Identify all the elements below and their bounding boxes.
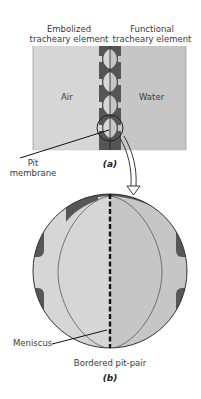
- meniscus-label: Meniscus: [13, 338, 52, 348]
- cell-wall-strip: [99, 46, 121, 150]
- panel-a-caption: (a): [103, 159, 117, 169]
- pit-membrane-label-line2: membrane: [10, 168, 57, 178]
- xylem-embolism-diagram: Embolized tracheary element Functional t…: [0, 0, 201, 399]
- pit-membrane-label-line1: Pit: [28, 158, 39, 168]
- water-label: Water: [139, 92, 164, 102]
- panel-b-caption: (b): [103, 373, 118, 383]
- air-label: Air: [61, 92, 73, 102]
- bordered-pit-pair-label: Bordered pit-pair: [74, 358, 146, 368]
